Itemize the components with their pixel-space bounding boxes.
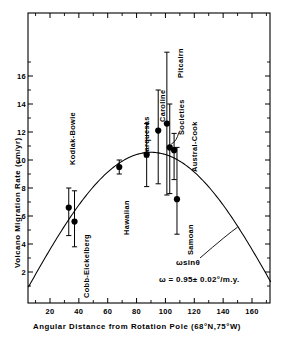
point-label: Austral-Cook [190,121,199,172]
y-tick-label: 2 [15,268,26,277]
x-tick-label: 40 [71,307,87,316]
x-tick-label: 140 [215,307,231,316]
x-axis-title: Angular Distance from Rotation Pole (68°… [33,322,241,331]
point-label: Societies [177,99,186,135]
y-axis-ticks [28,76,270,272]
y-tick-label: 10 [15,156,26,165]
data-point-marker [155,128,161,134]
chart-canvas [0,0,289,343]
data-point-marker [66,205,72,211]
x-tick-label: 160 [244,307,260,316]
point-label: Caroline [158,90,167,122]
point-label: Hawaiian [122,200,131,235]
y-tick-label: 4 [15,240,26,249]
point-label: Samoan [186,224,195,255]
point-label: Pitcairn [176,48,185,78]
x-tick-label: 60 [100,307,116,316]
x-tick-label: 100 [157,307,173,316]
y-tick-label: 16 [15,72,26,81]
x-tick-label: 80 [129,307,145,316]
omega-equation-label: ω = 0.95± 0.02°/m.y. [159,275,239,284]
y-tick-label: 6 [15,212,26,221]
point-label: Cobb-Eickelberg [82,234,91,298]
data-point-marker [116,164,122,170]
plot-frame [28,13,270,303]
omega-sin-theta-curve [28,152,270,287]
y-tick-label: 12 [15,128,26,137]
y-tick-label: 14 [15,100,26,109]
curve-label: ωsinθ [176,258,200,267]
curve-label-leader-line [200,227,238,258]
y-axis-minor-ticks [28,62,270,286]
data-point-marker [174,196,180,202]
x-tick-label: 120 [186,307,202,316]
point-label: Kodiak-Bowie [68,112,77,165]
y-tick-label: 8 [15,184,26,193]
x-tick-label: 20 [42,307,58,316]
data-point-marker [71,219,77,225]
point-label: Marquesas [142,116,151,158]
x-axis-ticks [50,13,252,303]
figure-container: Volcano Migration Rate (cm/yr) Angular D… [0,0,289,343]
data-point-marker [171,147,177,153]
